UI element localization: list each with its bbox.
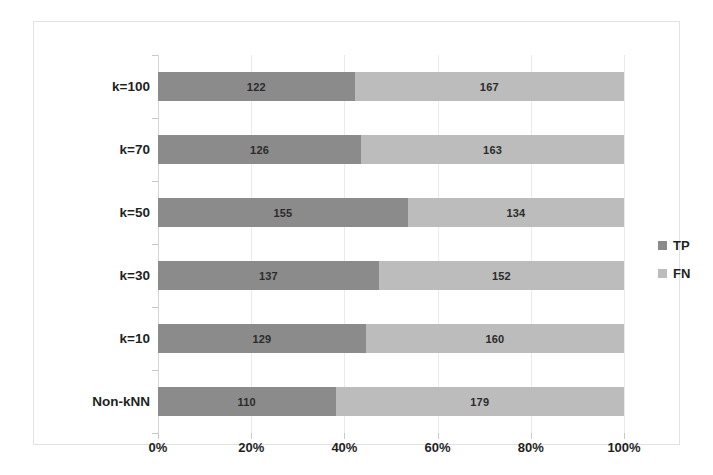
bar-value-fn: 160 <box>485 333 504 345</box>
x-axis-tick <box>251 433 252 439</box>
bar-row: 137152 <box>158 244 624 307</box>
plot-area: 122167126163155134137152129160110179 <box>158 55 624 433</box>
y-axis-tick <box>152 55 158 56</box>
bar-value-fn: 152 <box>492 270 511 282</box>
stacked-bar[interactable]: 110179 <box>158 387 624 416</box>
bar-segment-tp[interactable]: 155 <box>158 198 408 227</box>
bar-value-tp: 122 <box>247 81 266 93</box>
stacked-bar[interactable]: 129160 <box>158 324 624 353</box>
y-axis-tick <box>152 244 158 245</box>
x-axis-label-60%: 60% <box>425 440 451 455</box>
stacked-bar[interactable]: 137152 <box>158 261 624 290</box>
category-label-k70: k=70 <box>120 135 150 164</box>
y-axis-tick <box>152 307 158 308</box>
y-axis-tick <box>152 181 158 182</box>
bar-row: 129160 <box>158 307 624 370</box>
bar-value-tp: 155 <box>273 207 292 219</box>
x-axis-tick <box>438 433 439 439</box>
bar-segment-fn[interactable]: 179 <box>336 387 624 416</box>
bar-segment-tp[interactable]: 137 <box>158 261 379 290</box>
x-axis-label-20%: 20% <box>238 440 264 455</box>
chart-legend: TPFN <box>658 238 713 294</box>
bar-segment-fn[interactable]: 167 <box>355 72 624 101</box>
chart-frame: k=100k=70k=50k=30k=10Non-kNN 12216712616… <box>33 21 680 445</box>
bar-segment-fn[interactable]: 160 <box>366 324 624 353</box>
legend-swatch-tp-icon <box>658 241 667 250</box>
stacked-bar[interactable]: 155134 <box>158 198 624 227</box>
gridline-100% <box>624 55 625 433</box>
bar-value-fn: 163 <box>483 144 502 156</box>
bar-segment-tp[interactable]: 110 <box>158 387 336 416</box>
bar-value-tp: 129 <box>252 333 271 345</box>
bar-segment-tp[interactable]: 122 <box>158 72 355 101</box>
legend-item-fn[interactable]: FN <box>658 266 713 280</box>
y-axis-tick <box>152 118 158 119</box>
legend-label: TP <box>673 238 690 253</box>
category-label-k10: k=10 <box>120 324 150 353</box>
bar-row: 126163 <box>158 118 624 181</box>
bar-row: 122167 <box>158 55 624 118</box>
bar-segment-tp[interactable]: 129 <box>158 324 366 353</box>
category-label-non-knn: Non-kNN <box>92 387 150 416</box>
x-axis-tick <box>344 433 345 439</box>
bar-value-fn: 167 <box>480 81 499 93</box>
bar-rows: 122167126163155134137152129160110179 <box>158 55 624 433</box>
bar-value-tp: 137 <box>259 270 278 282</box>
x-axis-label-100%: 100% <box>607 440 640 455</box>
category-label-k30: k=30 <box>120 261 150 290</box>
x-axis-tick <box>531 433 532 439</box>
bar-segment-tp[interactable]: 126 <box>158 135 361 164</box>
category-label-k50: k=50 <box>120 198 150 227</box>
stacked-bar[interactable]: 126163 <box>158 135 624 164</box>
bar-segment-fn[interactable]: 134 <box>408 198 624 227</box>
bar-value-fn: 134 <box>506 207 525 219</box>
bar-row: 110179 <box>158 370 624 433</box>
bar-value-tp: 110 <box>238 396 256 408</box>
legend-label: FN <box>673 266 690 281</box>
legend-swatch-fn-icon <box>658 269 667 278</box>
bar-segment-fn[interactable]: 163 <box>361 135 624 164</box>
bar-value-fn: 179 <box>470 396 489 408</box>
stacked-bar[interactable]: 122167 <box>158 72 624 101</box>
y-axis-tick <box>152 370 158 371</box>
category-axis-labels: k=100k=70k=50k=30k=10Non-kNN <box>34 55 158 433</box>
bar-row: 155134 <box>158 181 624 244</box>
x-axis-label-40%: 40% <box>331 440 357 455</box>
x-axis-label-0%: 0% <box>149 440 168 455</box>
x-axis-label-80%: 80% <box>518 440 544 455</box>
x-axis-labels: 0%20%40%60%80%100% <box>158 440 624 464</box>
bar-value-tp: 126 <box>250 144 269 156</box>
x-axis-tick <box>158 433 159 439</box>
x-axis-tick <box>624 433 625 439</box>
bar-segment-fn[interactable]: 152 <box>379 261 624 290</box>
legend-item-tp[interactable]: TP <box>658 238 713 252</box>
category-label-k100: k=100 <box>112 72 150 101</box>
